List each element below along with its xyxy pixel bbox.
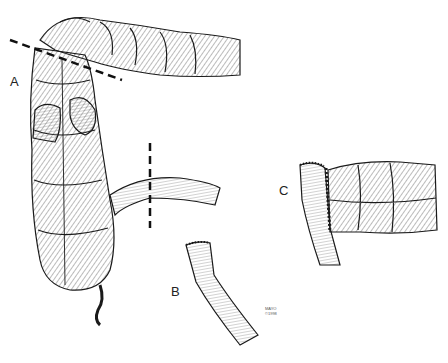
anastomosis — [300, 162, 437, 265]
panel-label-b: B — [171, 284, 180, 299]
illustration — [0, 0, 448, 363]
watermark-line2: ©1998 — [265, 311, 277, 316]
terminal-ileum — [110, 178, 220, 215]
panel-label-c: C — [279, 183, 288, 198]
ascending-colon — [31, 48, 114, 290]
appendix — [96, 285, 102, 325]
ileum-segment — [186, 242, 258, 345]
panel-label-a: A — [10, 74, 19, 89]
watermark: MAYO ©1998 — [265, 306, 277, 316]
